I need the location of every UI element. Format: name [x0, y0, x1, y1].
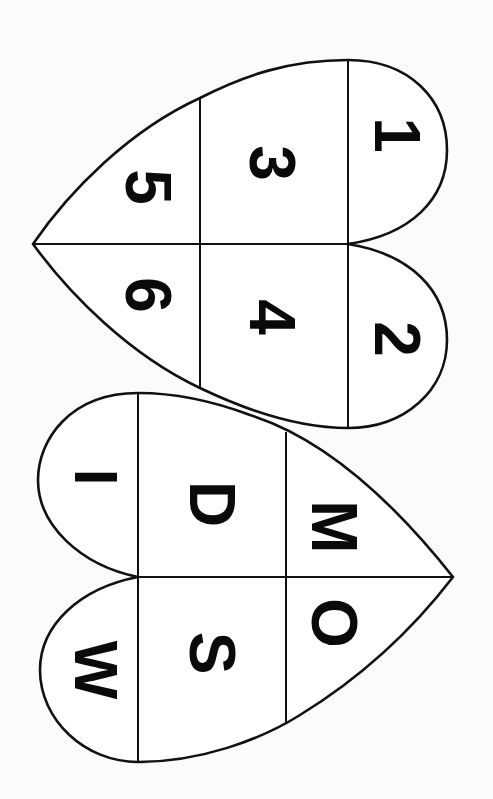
- letter-o: O: [298, 598, 370, 648]
- bottom-heart: W I S D O M: [38, 393, 453, 762]
- letter-d: D: [176, 481, 248, 527]
- letter-m: M: [298, 500, 370, 553]
- letter-w: W: [62, 641, 131, 700]
- number-2: 2: [361, 321, 433, 357]
- letter-s: S: [176, 632, 248, 675]
- hearts-worksheet: W I S D O M 1 2 3 4 5 6: [0, 0, 493, 799]
- number-1: 1: [361, 117, 433, 153]
- top-heart: 1 2 3 4 5 6: [33, 60, 447, 428]
- number-6: 6: [112, 277, 184, 313]
- number-5: 5: [112, 169, 184, 205]
- number-3: 3: [236, 145, 308, 181]
- letter-i: I: [62, 468, 131, 485]
- number-4: 4: [236, 299, 308, 335]
